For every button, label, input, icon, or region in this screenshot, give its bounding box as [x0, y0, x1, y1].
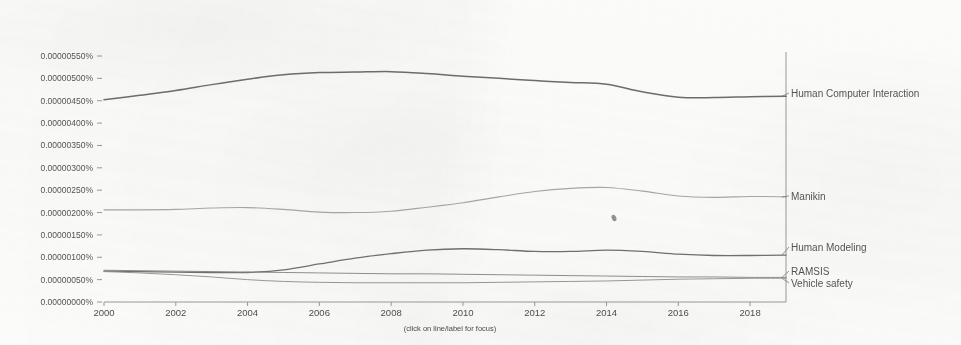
focus-hint-text: (click on line/label for focus) — [404, 324, 497, 333]
y-tick-label: 0.00000200% — [41, 208, 94, 218]
chart-canvas[interactable]: 0.00000550%0.00000500%0.00000450%0.00000… — [0, 0, 961, 345]
series-label-human-computer-interaction[interactable]: Human Computer Interaction — [791, 88, 919, 99]
series-line-human-computer-interaction[interactable] — [104, 72, 786, 100]
y-tick-label: 0.00000350% — [41, 140, 94, 150]
y-tick-label: 0.00000000% — [41, 297, 94, 307]
series-line-manikin[interactable] — [104, 187, 786, 212]
x-axis: 2000200220042006200820102012201420162018 — [93, 52, 786, 318]
ngram-line-chart[interactable]: 0.00000550%0.00000500%0.00000450%0.00000… — [0, 0, 961, 345]
y-tick-label: 0.00000150% — [41, 230, 94, 240]
series-label-manikin[interactable]: Manikin — [791, 191, 825, 202]
series-leader-vehicle-safety — [782, 278, 789, 283]
focus-hint-container: (click on line/label for focus) — [0, 317, 900, 335]
series-label-vehicle-safety[interactable]: Vehicle safety — [791, 278, 853, 289]
y-tick-label: 0.00000450% — [41, 96, 94, 106]
y-tick-label: 0.00000250% — [41, 185, 94, 195]
y-tick-label: 0.00000550% — [41, 51, 94, 61]
y-tick-label: 0.00000050% — [41, 275, 94, 285]
series-labels[interactable]: Human Computer InteractionManikinHuman M… — [782, 88, 919, 289]
series-leader-manikin — [782, 196, 789, 197]
y-tick-label: 0.00000500% — [41, 73, 94, 83]
y-tick-label: 0.00000100% — [41, 252, 94, 262]
y-tick-label: 0.00000400% — [41, 118, 94, 128]
series-lines[interactable] — [104, 72, 786, 283]
series-label-human-modeling[interactable]: Human Modeling — [791, 242, 867, 253]
series-leader-ramsis — [782, 271, 789, 277]
series-leader-human-modeling — [782, 247, 789, 255]
y-axis: 0.00000550%0.00000500%0.00000450%0.00000… — [41, 51, 102, 307]
scan-speck — [611, 214, 618, 222]
series-line-human-modeling[interactable] — [104, 249, 786, 273]
y-tick-label: 0.00000300% — [41, 163, 94, 173]
series-label-ramsis[interactable]: RAMSIS — [791, 266, 830, 277]
